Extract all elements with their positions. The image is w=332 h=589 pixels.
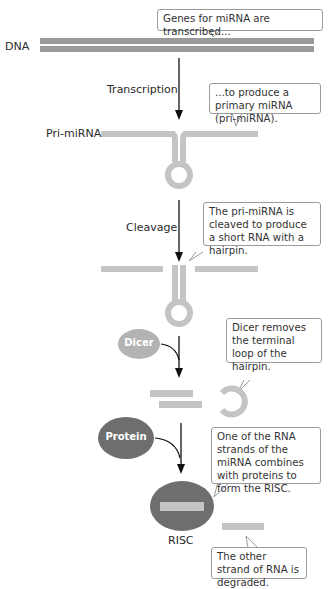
dicer-label: Dicer: [118, 337, 160, 348]
cleaved-hairpin: [101, 265, 258, 324]
risc-rna-strand: [160, 502, 204, 511]
callout-dicer-removes: Dicer removes the terminal loop of the h…: [226, 318, 322, 363]
terminal-loop: [222, 389, 245, 415]
callout-genes-transcribed: Genes for miRNA are transcribed...: [157, 9, 323, 31]
dna-label: DNA: [5, 40, 29, 53]
transcription-label: Transcription: [107, 83, 178, 96]
pri-mirna-hairpin: [101, 134, 258, 186]
protein-arrow: [155, 423, 185, 474]
callout-cleaved: The pri-miRNA is cleaved to produce a sh…: [203, 202, 321, 246]
mirna-duplex: [150, 390, 202, 408]
callout-primary-mirna: ...to produce a primary miRNA (pri-miRNA…: [209, 83, 321, 114]
degraded-strand: [222, 523, 264, 530]
dna-strand: [40, 38, 314, 52]
protein-label: Protein: [98, 431, 154, 442]
cleavage-label: Cleavage: [126, 221, 177, 234]
pri-mirna-label: Pri-miRNA: [46, 127, 101, 140]
callout-one-strand-risc: One of the RNA strands of the miRNA comb…: [211, 427, 321, 484]
risc-label: RISC: [168, 534, 194, 547]
dicer-arrow: [161, 336, 183, 378]
callout-other-strand-degraded: The other strand of RNA is degraded.: [211, 547, 307, 579]
